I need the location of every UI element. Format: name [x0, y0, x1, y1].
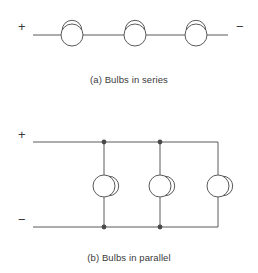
series-bulb-filament-arc: [186, 20, 206, 30]
parallel-bulb-envelope: [207, 175, 229, 197]
junction-dot: [158, 140, 163, 145]
series-bulb-filament-arc: [125, 20, 145, 30]
series-bulb-envelope: [185, 24, 207, 46]
parallel-negative-terminal-label: −: [18, 213, 26, 226]
series-circuit-group: [33, 20, 228, 46]
circuit-diagram: [0, 0, 258, 273]
parallel-bulb-filament-arc: [109, 176, 119, 196]
parallel-bulb-envelope: [149, 175, 171, 197]
series-bulb-envelope: [61, 24, 83, 46]
parallel-caption: (b) Bulbs in parallel: [0, 252, 258, 263]
parallel-bulb-filament-arc: [165, 176, 175, 196]
series-bulb-envelope: [124, 24, 146, 46]
junction-dot: [102, 225, 107, 230]
parallel-bulb-envelope: [93, 175, 115, 197]
series-caption: (a) Bulbs in series: [0, 74, 258, 85]
junction-dot: [158, 225, 163, 230]
series-negative-terminal-label: −: [236, 20, 244, 33]
parallel-bulb-filament-arc: [223, 176, 233, 196]
figure-root: + − + − (a) Bulbs in series (b) Bulbs in…: [0, 0, 258, 273]
series-bulb-filament-arc: [62, 20, 82, 30]
junction-dot: [102, 140, 107, 145]
series-positive-terminal-label: +: [18, 20, 26, 33]
parallel-circuit-group: [33, 140, 233, 230]
parallel-positive-terminal-label: +: [18, 128, 26, 141]
